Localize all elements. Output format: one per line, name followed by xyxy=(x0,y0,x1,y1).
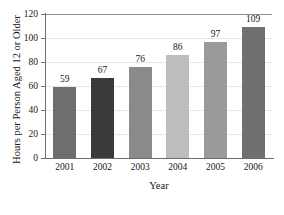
y-tick-mark xyxy=(41,38,45,39)
y-tick-label: 60 xyxy=(8,82,38,92)
y-tick-mark xyxy=(41,134,45,135)
y-tick-label: 80 xyxy=(8,58,38,68)
y-tick-mark xyxy=(41,158,45,159)
gridline xyxy=(46,110,272,111)
y-tick-mark xyxy=(41,62,45,63)
gridline xyxy=(46,62,272,63)
bar-value-label: 59 xyxy=(49,75,81,85)
bar-value-label: 109 xyxy=(237,15,269,25)
x-tick-label: 2002 xyxy=(85,162,121,172)
bar-value-label: 86 xyxy=(162,43,194,53)
bar xyxy=(129,67,152,158)
y-tick-label: 20 xyxy=(8,130,38,140)
y-tick-label: 40 xyxy=(8,106,38,116)
y-tick-label: 100 xyxy=(8,34,38,44)
bar xyxy=(53,87,76,158)
x-tick-label: 2006 xyxy=(235,162,271,172)
y-tick-mark xyxy=(41,86,45,87)
y-tick-mark xyxy=(41,14,45,15)
bar-value-label: 76 xyxy=(124,55,156,65)
bar-chart-figure: Hours per Person Aged 12 or Older 020406… xyxy=(0,0,284,215)
bar xyxy=(166,55,189,158)
bar xyxy=(204,42,227,158)
y-tick-mark xyxy=(41,110,45,111)
cropped-title xyxy=(34,0,248,6)
x-axis-line xyxy=(45,158,274,159)
plot-area: 5967768697109 xyxy=(46,14,272,158)
x-axis-title: Year xyxy=(46,180,272,191)
x-tick-label: 2005 xyxy=(198,162,234,172)
bar xyxy=(242,27,265,158)
bar xyxy=(91,78,114,158)
y-tick-label: 0 xyxy=(8,154,38,164)
x-tick-label: 2004 xyxy=(160,162,196,172)
gridline xyxy=(46,38,272,39)
gridline xyxy=(46,86,272,87)
y-tick-label: 120 xyxy=(8,10,38,20)
x-tick-label: 2001 xyxy=(47,162,83,172)
gridline xyxy=(46,134,272,135)
x-tick-label: 2003 xyxy=(122,162,158,172)
bar-value-label: 67 xyxy=(87,66,119,76)
bar-value-label: 97 xyxy=(200,30,232,40)
